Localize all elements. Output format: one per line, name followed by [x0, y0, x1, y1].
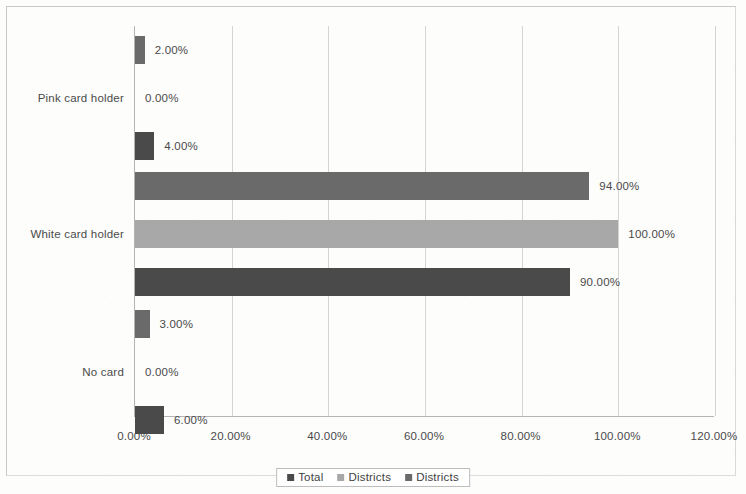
- y-axis-label-pink-card-holder: Pink card holder: [0, 92, 124, 104]
- legend-label: Districts: [416, 471, 459, 483]
- legend-swatch-icon: [337, 474, 344, 481]
- bar-row: 90.00%: [135, 268, 715, 296]
- bar-row: 2.00%: [135, 36, 715, 64]
- bar-row: 0.00%: [135, 358, 715, 386]
- bar-row: 100.00%: [135, 220, 715, 248]
- bar-row: 94.00%: [135, 172, 715, 200]
- bar-value-label: 94.00%: [599, 180, 639, 192]
- bar[interactable]: [135, 36, 145, 64]
- x-axis-tick-6000: 60.00%: [404, 430, 444, 442]
- bar-value-label: 90.00%: [580, 276, 620, 288]
- bar-row: 3.00%: [135, 310, 715, 338]
- chart-legend: TotalDistrictsDistricts: [276, 468, 470, 487]
- x-axis-tick-4000: 40.00%: [307, 430, 347, 442]
- bar[interactable]: [135, 172, 589, 200]
- bar-value-label: 4.00%: [164, 140, 198, 152]
- bar[interactable]: [135, 268, 570, 296]
- plot-area: 2.00%0.00%4.00%94.00%100.00%90.00%3.00%0…: [134, 26, 714, 417]
- x-axis-tick-2000: 20.00%: [211, 430, 251, 442]
- bar[interactable]: [135, 310, 150, 338]
- bar-value-label: 0.00%: [145, 366, 179, 378]
- legend-entry[interactable]: Total: [287, 471, 323, 483]
- legend-entry[interactable]: Districts: [405, 471, 459, 483]
- x-axis-tick-8000: 80.00%: [501, 430, 541, 442]
- bar-value-label: 6.00%: [174, 414, 208, 426]
- bar-value-label: 100.00%: [628, 228, 675, 240]
- legend-entry[interactable]: Districts: [337, 471, 391, 483]
- bar[interactable]: [135, 132, 154, 160]
- legend-swatch-icon: [405, 474, 412, 481]
- bar[interactable]: [135, 220, 618, 248]
- y-axis-label-white-card-holder: White card holder: [0, 228, 124, 240]
- bar-value-label: 0.00%: [145, 92, 179, 104]
- legend-label: Total: [298, 471, 323, 483]
- chart-screenshot: Pink card holderWhite card holderNo card…: [0, 0, 746, 494]
- y-axis-label-no-card: No card: [0, 366, 124, 378]
- legend-swatch-icon: [287, 474, 294, 481]
- bar-row: 4.00%: [135, 132, 715, 160]
- x-axis-tick-10000: 100.00%: [594, 430, 641, 442]
- gridline-12000: [715, 26, 716, 416]
- x-axis-tick-000: 0.00%: [117, 430, 151, 442]
- bar-row: 0.00%: [135, 84, 715, 112]
- legend-label: Districts: [348, 471, 391, 483]
- x-axis-tick-12000: 120.00%: [691, 430, 738, 442]
- bar-value-label: 2.00%: [155, 44, 189, 56]
- bar-value-label: 3.00%: [160, 318, 194, 330]
